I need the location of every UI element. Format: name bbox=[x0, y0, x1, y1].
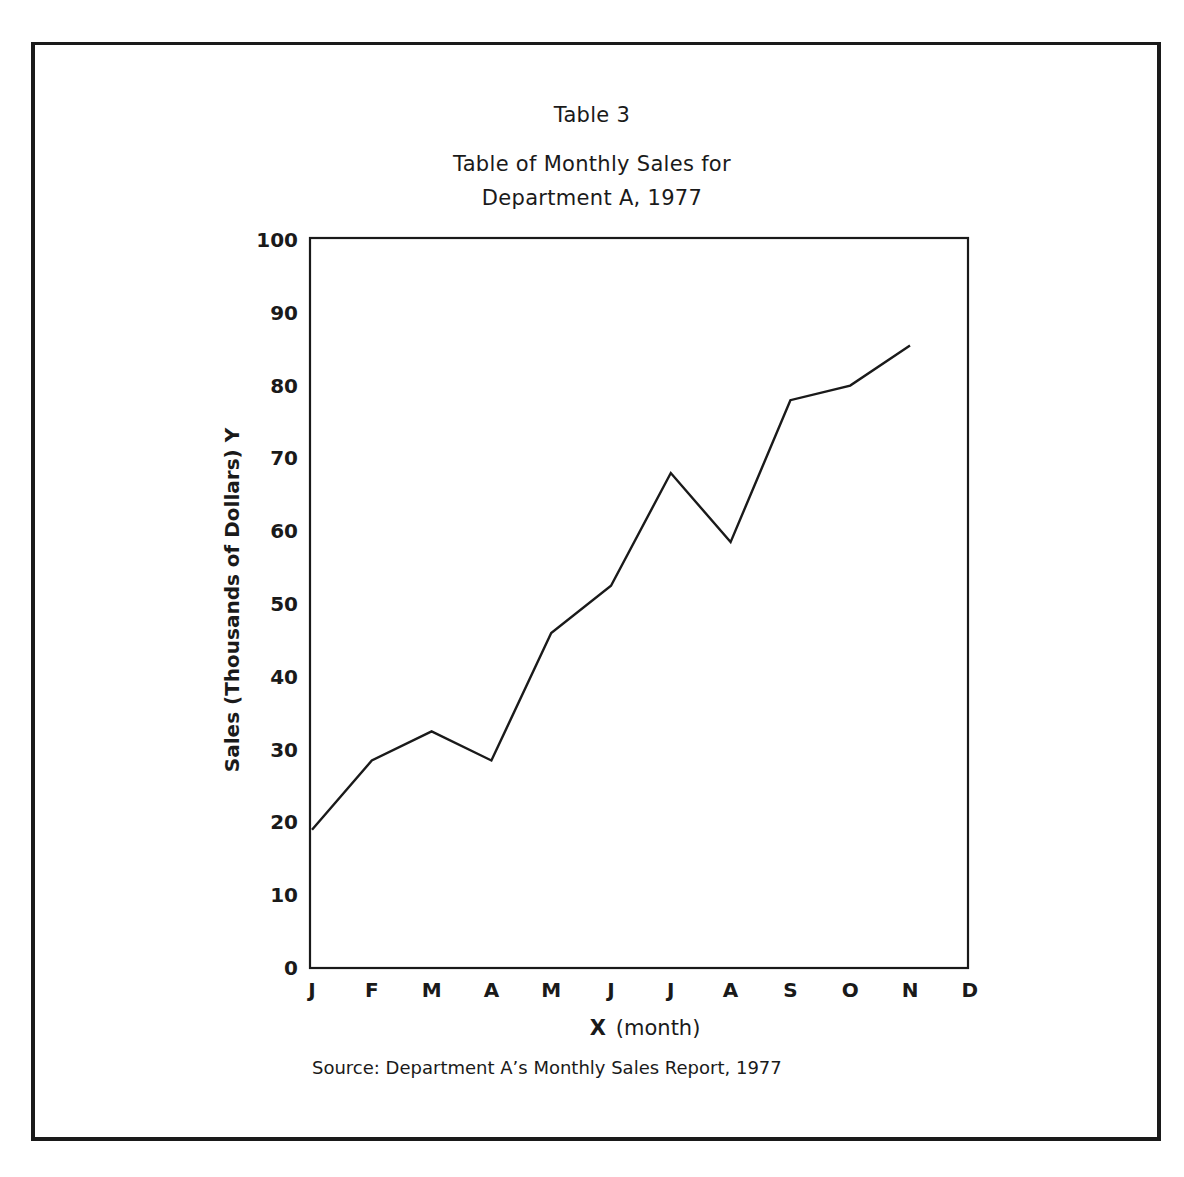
y-axis-ticks: 0102030405060708090100 bbox=[256, 228, 298, 980]
y-tick-label: 90 bbox=[270, 301, 298, 325]
x-tick-label: J bbox=[605, 978, 614, 1002]
source-note: Source: Department A’s Monthly Sales Rep… bbox=[312, 1057, 782, 1078]
x-tick-label: M bbox=[422, 978, 442, 1002]
x-tick-label: J bbox=[306, 978, 315, 1002]
y-tick-label: 50 bbox=[270, 592, 298, 616]
y-tick-label: 10 bbox=[270, 883, 298, 907]
y-tick-label: 20 bbox=[270, 810, 298, 834]
y-tick-label: 40 bbox=[270, 665, 298, 689]
x-tick-label: F bbox=[365, 978, 379, 1002]
x-axis-ticks: JFMAMJJASOND bbox=[306, 978, 978, 1002]
y-tick-label: 70 bbox=[270, 446, 298, 470]
x-tick-label: M bbox=[541, 978, 561, 1002]
y-axis-label: Sales (Thousands of Dollars) Y bbox=[220, 428, 244, 772]
y-tick-label: 0 bbox=[284, 956, 298, 980]
x-axis-unit: (month) bbox=[616, 1016, 701, 1040]
y-tick-label: 100 bbox=[256, 228, 298, 252]
x-axis-variable: X bbox=[590, 1016, 606, 1040]
plot-frame bbox=[310, 238, 968, 968]
x-tick-label: N bbox=[902, 978, 919, 1002]
x-tick-label: O bbox=[842, 978, 859, 1002]
x-tick-label: A bbox=[484, 978, 500, 1002]
x-tick-label: S bbox=[783, 978, 797, 1002]
x-tick-label: D bbox=[961, 978, 978, 1002]
y-tick-label: 30 bbox=[270, 738, 298, 762]
y-tick-label: 60 bbox=[270, 519, 298, 543]
y-tick-label: 80 bbox=[270, 374, 298, 398]
x-tick-label: J bbox=[665, 978, 674, 1002]
sales-line bbox=[312, 346, 910, 830]
x-tick-label: A bbox=[723, 978, 739, 1002]
line-chart: 0102030405060708090100 JFMAMJJASOND bbox=[0, 0, 1184, 1177]
x-axis-label: X(month) bbox=[0, 1016, 1184, 1040]
